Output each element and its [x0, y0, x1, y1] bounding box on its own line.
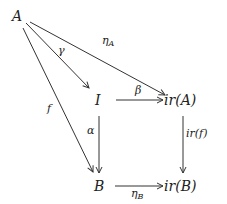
node-I: I [94, 92, 101, 108]
node-irA: ir(A) [164, 92, 196, 108]
node-irB: ir(B) [164, 178, 196, 194]
label-alpha: α [87, 124, 95, 137]
label-gamma: γ [58, 44, 65, 57]
label-eta-B: ηB [131, 187, 144, 201]
label-f: f [46, 102, 53, 115]
label-ir-f: ir(f) [186, 127, 207, 140]
label-eta-A: ηA [102, 34, 115, 48]
node-B: B [93, 178, 104, 194]
commutative-diagram: A I ir(A) B ir(B) γ ηA f β α ir(f) ηB [0, 0, 227, 204]
node-A: A [10, 8, 22, 24]
label-beta: β [134, 84, 141, 97]
